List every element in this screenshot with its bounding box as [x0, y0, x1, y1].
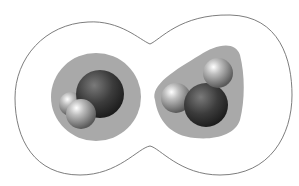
oxygen-atom [184, 83, 228, 127]
hydrogen-atom [66, 99, 96, 129]
hydrogen-atom [203, 58, 233, 88]
diagram-canvas [0, 0, 299, 186]
molecule-diagram [0, 0, 299, 186]
